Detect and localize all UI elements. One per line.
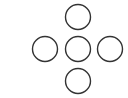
circle-bottom [66, 69, 91, 94]
circle-cross-diagram [0, 0, 128, 98]
circle-left [33, 37, 58, 62]
circle-center [66, 37, 91, 62]
circle-group [33, 5, 123, 94]
circle-right [98, 37, 123, 62]
circle-top [66, 5, 91, 30]
